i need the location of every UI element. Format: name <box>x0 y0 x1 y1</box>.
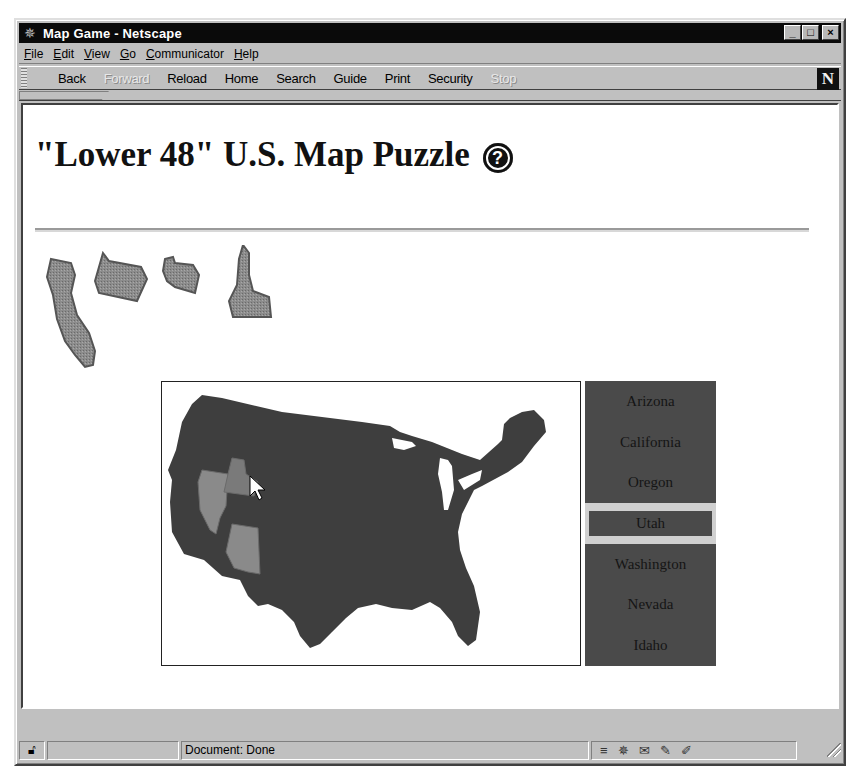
maximize-button[interactable]: □ <box>802 25 819 40</box>
security-button[interactable]: Security <box>419 71 482 86</box>
menu-label: elp <box>243 47 259 61</box>
composer-icon[interactable]: ✐ <box>681 743 692 758</box>
progress-cell <box>47 741 179 760</box>
oregon-piece[interactable] <box>95 253 147 301</box>
security-lock-cell[interactable]: 🔓︎ <box>19 741 45 760</box>
page-title-text: "Lower 48" U.S. Map Puzzle <box>35 135 470 174</box>
state-option-washington[interactable]: Washington <box>585 544 716 585</box>
stop-button[interactable]: Stop <box>482 71 526 86</box>
browser-window: ✵ Map Game - Netscape _ □ × File Edit Vi… <box>14 18 846 766</box>
menu-accel: H <box>234 47 243 61</box>
status-bar: 🔓︎ Document: Done ≡ ✵ ✉ ✎ ✐ <box>19 739 841 761</box>
state-option-idaho[interactable]: Idaho <box>585 625 716 666</box>
state-option-nevada[interactable]: Nevada <box>585 584 716 625</box>
home-button[interactable]: Home <box>216 71 267 86</box>
netscape-app-icon: ✵ <box>21 25 39 41</box>
toolbar-grip-handle[interactable] <box>21 68 27 88</box>
state-option-california[interactable]: California <box>585 422 716 463</box>
resize-grip[interactable] <box>827 743 841 757</box>
washington-piece[interactable] <box>163 257 199 293</box>
horizontal-rule <box>35 228 809 232</box>
close-button[interactable]: × <box>822 25 839 40</box>
menu-file[interactable]: File <box>19 47 48 61</box>
status-text: Document: Done <box>185 743 275 757</box>
us-lower-48-silhouette <box>168 395 546 648</box>
collapsed-toolbar-tabs <box>19 91 841 101</box>
page-content: "Lower 48" U.S. Map Puzzle ? <box>21 103 839 709</box>
menu-edit[interactable]: Edit <box>48 47 79 61</box>
menu-label: iew <box>92 47 110 61</box>
menu-label: ommunicator <box>155 47 224 61</box>
component-bar-grip-icon[interactable]: ≡ <box>600 743 608 758</box>
us-map-board[interactable] <box>161 381 581 666</box>
search-button[interactable]: Search <box>267 71 324 86</box>
window-title: Map Game - Netscape <box>43 26 182 41</box>
discussion-groups-icon[interactable]: ✎ <box>660 743 671 758</box>
toolbar-collapse-tab[interactable] <box>19 91 109 100</box>
component-bar: ≡ ✵ ✉ ✎ ✐ <box>591 741 797 760</box>
state-option-oregon[interactable]: Oregon <box>585 462 716 503</box>
menu-go[interactable]: Go <box>115 47 141 61</box>
reload-button[interactable]: Reload <box>158 71 215 86</box>
state-name-list: Arizona California Oregon Utah Washingto… <box>585 381 716 666</box>
page-title: "Lower 48" U.S. Map Puzzle ? <box>35 135 513 175</box>
back-button[interactable]: Back <box>49 71 95 86</box>
menu-label: dit <box>61 47 74 61</box>
menu-accel: G <box>120 47 129 61</box>
unlocked-padlock-icon: 🔓︎ <box>28 743 36 757</box>
state-option-utah-label: Utah <box>589 511 712 536</box>
idaho-piece[interactable] <box>229 245 271 317</box>
netscape-logo-icon[interactable]: N <box>817 68 839 90</box>
forward-button[interactable]: Forward <box>95 71 159 86</box>
navigation-toolbar: Back Forward Reload Home Search Guide Pr… <box>19 66 841 90</box>
menu-label: o <box>129 47 136 61</box>
title-bar[interactable]: ✵ Map Game - Netscape _ □ × <box>19 23 841 43</box>
navigator-icon[interactable]: ✵ <box>618 743 629 758</box>
menu-label: ile <box>31 47 43 61</box>
guide-button[interactable]: Guide <box>325 71 376 86</box>
print-button[interactable]: Print <box>376 71 419 86</box>
menu-bar: File Edit View Go Communicator Help <box>19 44 841 64</box>
status-text-cell: Document: Done <box>181 741 589 760</box>
state-option-arizona[interactable]: Arizona <box>585 381 716 422</box>
menu-help[interactable]: Help <box>229 47 264 61</box>
menu-accel: V <box>84 47 92 61</box>
california-piece[interactable] <box>47 259 95 367</box>
menu-communicator[interactable]: Communicator <box>141 47 229 61</box>
help-icon[interactable]: ? <box>483 143 513 173</box>
state-option-utah[interactable]: Utah <box>585 503 716 544</box>
menu-accel: C <box>146 47 155 61</box>
minimize-button[interactable]: _ <box>784 25 801 40</box>
mailbox-icon[interactable]: ✉ <box>639 743 650 758</box>
menu-view[interactable]: View <box>79 47 115 61</box>
